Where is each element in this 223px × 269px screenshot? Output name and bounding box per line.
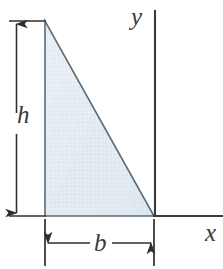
triangle-shape [45, 21, 154, 216]
triangle-area-figure: h b y x [0, 0, 223, 269]
height-label: h [17, 102, 30, 127]
figure-canvas [0, 0, 223, 269]
base-label: b [94, 230, 107, 255]
coordinate-axes [153, 10, 223, 217]
x-axis-label: x [205, 220, 216, 245]
y-axis-label: y [131, 4, 142, 29]
